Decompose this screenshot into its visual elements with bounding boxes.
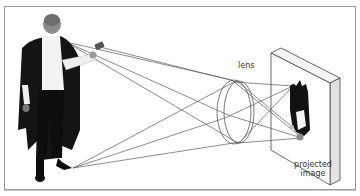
- projected-image-label: projected image: [290, 160, 336, 178]
- projected-image-label-line2: image: [290, 169, 336, 178]
- lens-label: lens: [238, 61, 254, 70]
- lens: [217, 80, 254, 144]
- light-rays: [66, 42, 302, 168]
- projected-image-label-line1: projected: [290, 160, 336, 169]
- person-figure: [18, 14, 105, 182]
